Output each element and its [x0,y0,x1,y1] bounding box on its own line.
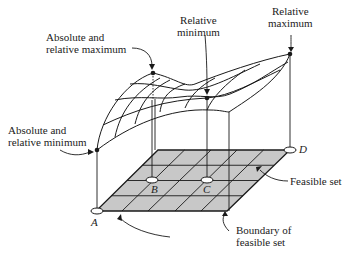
point-label-c: C [203,183,210,195]
label-relative-maximum: Relative maximum [268,5,313,29]
label-absolute-relative-maximum: Absolute and relative maximum [46,31,126,55]
label-line: relative maximum [46,43,126,55]
label-line: Absolute and [46,31,126,43]
label-line: maximum [268,17,313,29]
label-line: Boundary of [236,224,291,236]
label-line: minimum [177,26,220,38]
label-line: Absolute and [8,124,87,136]
label-relative-minimum: Relative minimum [177,14,220,38]
point-label-b: B [151,183,158,195]
extremum-points [95,52,293,153]
point-label-a: A [91,216,98,228]
label-line: relative minimum [8,136,87,148]
surface-mesh [97,54,290,150]
label-boundary-feasible-set: Boundary of feasible set [236,224,291,248]
label-line: feasible set [236,236,291,248]
feasible-set-grid [96,150,290,211]
label-line: Relative [268,5,313,17]
label-absolute-relative-minimum: Absolute and relative minimum [8,124,87,148]
point-label-d: D [299,143,307,155]
label-line: Relative [177,14,220,26]
label-feasible-set: Feasible set [290,175,342,187]
